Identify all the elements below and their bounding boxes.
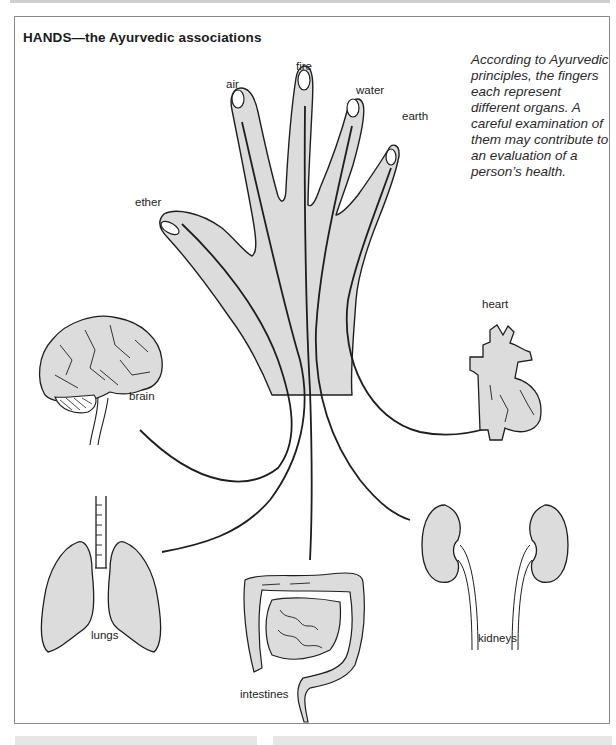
hand-icon [160, 66, 399, 395]
page-bottom-bar-left [15, 736, 257, 745]
label-heart: heart [482, 298, 508, 310]
label-intestines: intestines [240, 688, 289, 700]
kidneys-icon [422, 505, 568, 650]
brain-icon [40, 316, 163, 445]
heart-icon [470, 325, 541, 440]
label-water: water [356, 84, 384, 96]
label-earth: earth [402, 110, 428, 122]
label-air: air [226, 78, 239, 90]
page-bottom-bar-right [273, 736, 612, 745]
label-kidneys: kidneys [478, 632, 517, 644]
label-lungs: lungs [91, 629, 119, 641]
label-ether: ether [135, 196, 161, 208]
label-fire: fire [296, 60, 312, 72]
label-brain: brain [129, 390, 155, 402]
